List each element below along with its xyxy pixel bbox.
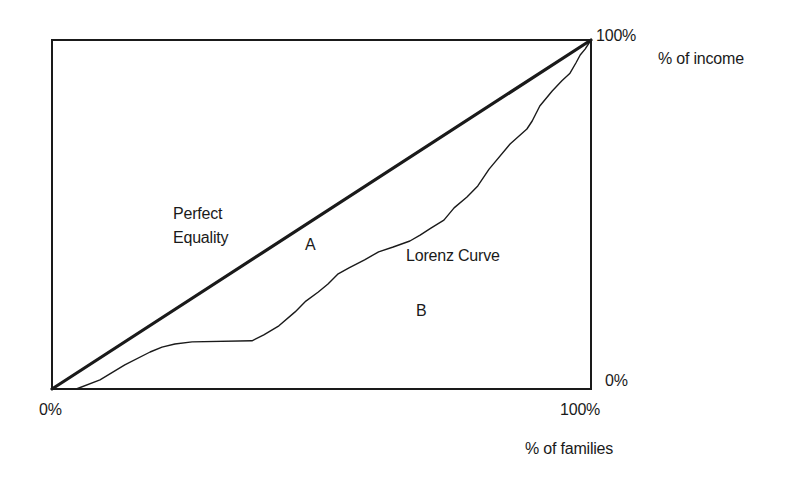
y-axis-title: % of income — [658, 50, 744, 68]
x-axis-title: % of families — [525, 440, 613, 458]
y-tick-top: 100% — [596, 27, 636, 45]
perfect-equality-label-line2: Equality — [173, 229, 228, 247]
x-tick-right: 100% — [560, 401, 600, 419]
lorenz-chart — [0, 0, 810, 485]
y-tick-bottom: 0% — [605, 372, 628, 390]
lorenz-curve-label: Lorenz Curve — [406, 247, 500, 265]
perfect-equality-label-line1: Perfect — [173, 205, 222, 223]
perfect-equality-line — [52, 40, 591, 389]
x-tick-left: 0% — [39, 401, 62, 419]
area-a-label: A — [305, 236, 315, 254]
area-b-label: B — [416, 302, 426, 320]
